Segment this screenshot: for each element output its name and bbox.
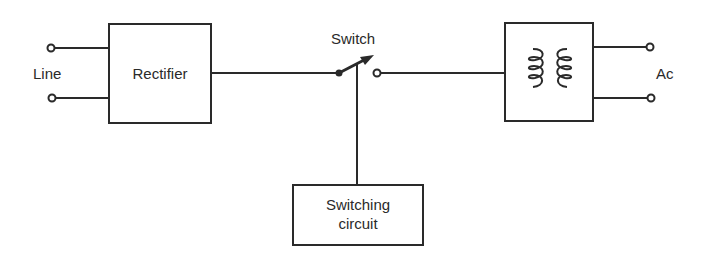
line-terminal-bottom-icon: [49, 95, 56, 102]
switching-circuit-label-line1: Switching: [293, 196, 423, 214]
ac-terminal-top-icon: [647, 44, 654, 51]
line-label: Line: [33, 65, 61, 83]
switch-label: Switch: [331, 30, 375, 48]
ac-output-connections: [593, 44, 655, 102]
ac-terminal-bottom-icon: [648, 95, 655, 102]
line-terminal-top-icon: [48, 45, 55, 52]
rectifier-label: Rectifier: [109, 65, 211, 83]
switching-circuit-label-line2: circuit: [293, 215, 423, 233]
switch-arrow-icon: [360, 55, 374, 65]
transformer-block: [505, 23, 593, 121]
ac-label: Ac: [656, 65, 674, 83]
switch-blade: [339, 59, 366, 73]
transformer-icon: [529, 49, 571, 87]
switch-contact-icon: [374, 70, 381, 77]
